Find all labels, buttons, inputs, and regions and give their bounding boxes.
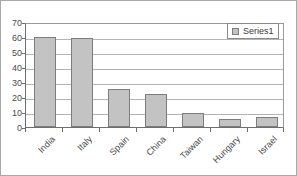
y-axis-tick-marks [1, 23, 25, 128]
bar-italy [71, 38, 93, 127]
bar-chart: 010203040506070 IndiaItalySpainChinaTaiw… [0, 0, 297, 176]
bar-israel [256, 117, 278, 127]
x-axis-tick-label-hungary: Hungary [211, 134, 242, 165]
series1-color-swatch [232, 28, 239, 35]
x-axis-tick-label-spain: Spain [108, 134, 131, 157]
gridline [26, 84, 283, 85]
gridline [26, 54, 283, 55]
bar-spain [108, 89, 130, 127]
x-axis-tick-label-china: China [144, 134, 168, 158]
legend-label-series1: Series1 [243, 27, 274, 36]
gridline [26, 69, 283, 70]
bar-taiwan [182, 113, 204, 127]
legend[interactable]: Series1 [227, 23, 279, 39]
x-axis-tick-label-israel: Israel [256, 134, 279, 157]
bar-china [145, 94, 167, 127]
bar-hungary [219, 119, 241, 127]
x-axis-tick-label-india: India [36, 134, 57, 155]
x-axis-tick-label-italy: Italy [75, 134, 94, 153]
bar-india [34, 37, 56, 127]
gridline [26, 39, 283, 40]
x-axis-tick-label-taiwan: Taiwan [178, 134, 205, 161]
x-axis-tick-labels: IndiaItalySpainChinaTaiwanHungaryIsrael [1, 128, 297, 176]
